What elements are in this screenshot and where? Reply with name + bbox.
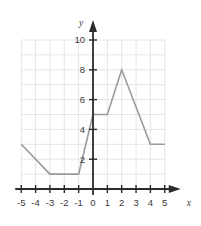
x-tick-label: -1 — [74, 197, 82, 208]
chart-canvas: -5-4-3-2-1012345x246810y — [0, 0, 201, 226]
y-axis-arrow — [89, 20, 97, 32]
y-axis-label: y — [78, 18, 84, 28]
x-tick-label: 3 — [133, 197, 138, 208]
x-tick-label: -4 — [31, 197, 39, 208]
x-tick-label: -5 — [17, 197, 25, 208]
y-tick-label: 2 — [80, 154, 85, 165]
y-tick-label: 10 — [74, 34, 85, 45]
x-axis-arrow — [169, 185, 181, 193]
y-tick-label: 4 — [80, 124, 85, 135]
x-axis-label: x — [186, 198, 192, 208]
y-tick-label: 6 — [80, 94, 85, 105]
x-tick-label: 2 — [119, 197, 124, 208]
line-chart: -5-4-3-2-1012345x246810y — [0, 0, 201, 226]
x-tick-label: 4 — [148, 197, 153, 208]
axes — [15, 20, 181, 195]
x-tick-label: -2 — [60, 197, 68, 208]
x-tick-label: 1 — [105, 197, 110, 208]
x-tick-label: 5 — [162, 197, 167, 208]
x-tick-label: -3 — [46, 197, 54, 208]
y-tick-label: 8 — [80, 64, 85, 75]
x-tick-label: 0 — [90, 197, 95, 208]
